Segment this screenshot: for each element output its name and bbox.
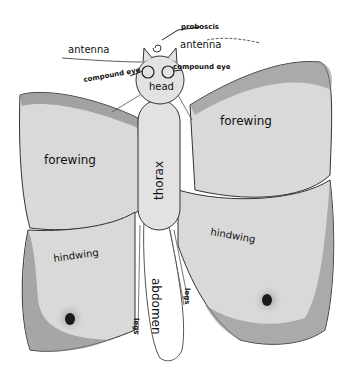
label-forewing-right: forewing [220,114,272,128]
label-legs-left: legs [132,318,140,334]
label-compound-eye-right: compound eye [173,63,231,71]
label-thorax: thorax [152,161,166,200]
label-compound-eye-left: compound eye [83,66,141,84]
label-forewing-left: forewing [44,153,96,167]
antenna-left-pointer [62,58,142,62]
butterfly-diagram: proboscis antenna antenna compound eye c… [0,0,353,375]
label-abdomen: abdomen [149,278,163,335]
head-leg-line-left [112,95,140,112]
right-hindwing-spot [262,294,272,306]
label-proboscis: proboscis [181,23,219,31]
label-head: head [149,81,174,92]
label-legs-right: legs [183,288,191,304]
label-antenna-left: antenna [68,44,109,55]
left-hindwing-spot [65,313,75,325]
label-antenna-right: antenna [180,39,221,50]
proboscis-coil [153,45,161,52]
